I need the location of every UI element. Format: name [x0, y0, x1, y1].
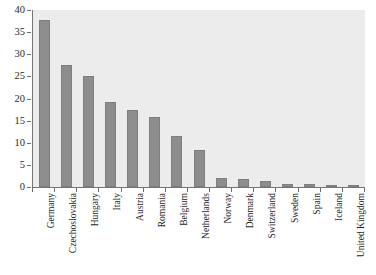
- y-tick-label: 40: [15, 5, 26, 16]
- bar: [105, 102, 116, 187]
- x-tick-label: Austria: [136, 193, 146, 221]
- y-tick-mark: [27, 165, 31, 166]
- y-tick-mark: [27, 121, 31, 122]
- x-tick-label: Germany: [47, 193, 57, 228]
- y-tick-mark: [27, 143, 31, 144]
- bar: [149, 117, 160, 187]
- y-tick-mark: [27, 54, 31, 55]
- bar: [39, 20, 50, 187]
- bar: [127, 110, 138, 187]
- x-tick-mark: [121, 188, 122, 192]
- x-tick-label: Spain: [313, 193, 323, 215]
- x-tick-label: Sweden: [291, 193, 301, 223]
- y-tick-mark: [27, 99, 31, 100]
- bar: [304, 184, 315, 187]
- bar: [282, 184, 293, 187]
- x-tick-mark: [143, 188, 144, 192]
- bars-container: [33, 10, 365, 187]
- x-tick-label: Denmark: [246, 193, 256, 228]
- x-tick-label: Switzerland: [268, 193, 278, 238]
- bar: [238, 179, 249, 187]
- x-tick-mark: [275, 188, 276, 192]
- y-tick-label: 35: [15, 27, 26, 38]
- bar: [326, 185, 337, 187]
- x-axis-labels: GermanyCzechoslovakiaHungaryItalyAustria…: [32, 193, 365, 275]
- x-tick-label: United Kingdom: [357, 193, 367, 257]
- x-tick-label: Belgium: [180, 193, 190, 226]
- x-tick-mark: [76, 188, 77, 192]
- x-tick-mark: [98, 188, 99, 192]
- bar: [194, 150, 205, 187]
- bar-chart: 0510152025303540 GermanyCzechoslovakiaHu…: [0, 0, 376, 275]
- x-tick-mark: [320, 188, 321, 192]
- y-tick-mark: [27, 10, 31, 11]
- x-tick-mark: [187, 188, 188, 192]
- x-tick-mark: [209, 188, 210, 192]
- bar: [216, 178, 227, 187]
- y-tick-label: 5: [20, 160, 25, 171]
- x-tick-label: Romania: [158, 193, 168, 227]
- y-tick-mark: [27, 76, 31, 77]
- plot-area: [32, 10, 365, 188]
- x-tick-mark: [54, 188, 55, 192]
- y-tick-label: 25: [15, 71, 26, 82]
- y-tick-label: 15: [15, 115, 26, 126]
- y-tick-label: 20: [15, 93, 26, 104]
- x-tick-mark: [165, 188, 166, 192]
- x-tick-mark: [253, 188, 254, 192]
- y-tick-label: 10: [15, 138, 26, 149]
- x-tick-mark: [298, 188, 299, 192]
- x-tick-label: Iceland: [335, 193, 345, 221]
- y-tick-label: 30: [15, 49, 26, 60]
- x-tick-label: Netherlands: [202, 193, 212, 239]
- bar: [83, 76, 94, 187]
- x-tick-mark: [342, 188, 343, 192]
- x-tick-label: Norway: [224, 193, 234, 224]
- bar: [348, 185, 359, 187]
- x-tick-mark: [364, 188, 365, 192]
- x-tick-mark: [231, 188, 232, 192]
- bar: [171, 136, 182, 187]
- x-tick-label: Italy: [113, 193, 123, 210]
- x-tick-label: Czechoslovakia: [69, 193, 79, 253]
- y-axis: 0510152025303540: [0, 0, 32, 195]
- y-tick-label: 0: [20, 182, 25, 193]
- y-tick-mark: [27, 32, 31, 33]
- x-tick-label: Hungary: [91, 193, 101, 226]
- bar: [260, 181, 271, 187]
- bar: [61, 65, 72, 187]
- x-tick-mark: [32, 188, 33, 192]
- y-tick-mark: [27, 187, 31, 188]
